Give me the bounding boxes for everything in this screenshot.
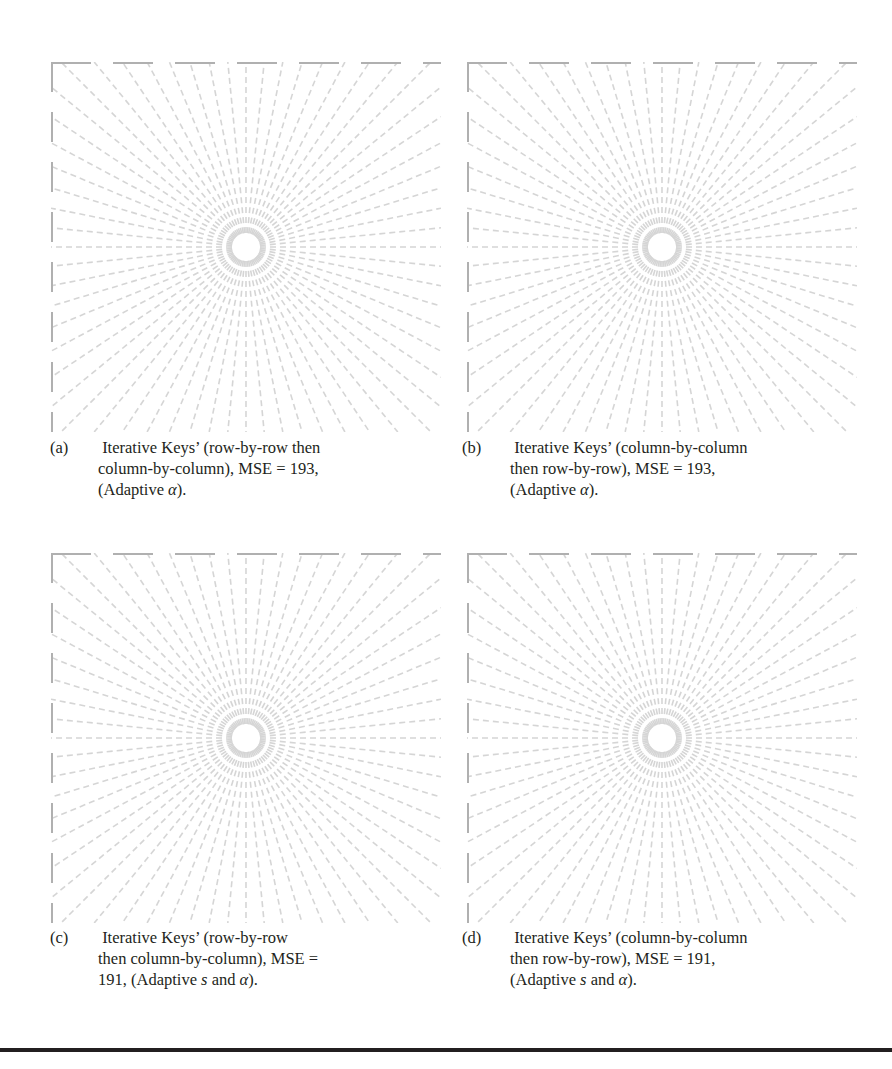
caption-line-1: Iterative Keys’ (column-by-column [514,928,747,947]
caption-label: (b) [486,437,510,458]
starburst-image [51,553,441,923]
caption-label: (c) [74,927,98,948]
bottom-rule [0,1048,892,1052]
figure-image-a [51,62,441,432]
caption-line-3: 191, (Adaptive s and α). [74,969,434,990]
figure-image-b [467,62,857,432]
caption-line-3: (Adaptive α). [74,479,434,500]
caption-label: (a) [74,437,98,458]
caption-line-2: then row-by-row), MSE = 191, [486,948,846,969]
caption-c: (c) Iterative Keys’ (row-by-row then col… [74,927,434,990]
caption-d: (d) Iterative Keys’ (column-by-column th… [486,927,846,990]
caption-line-3: (Adaptive α). [486,479,846,500]
starburst-image [51,62,441,432]
caption-line-2: column-by-column), MSE = 193, [74,458,434,479]
caption-a: (a) Iterative Keys’ (row-by-row then col… [74,437,434,500]
figure-image-d [467,553,857,923]
starburst-image [467,553,857,923]
caption-b: (b) Iterative Keys’ (column-by-column th… [486,437,846,500]
caption-line-1: Iterative Keys’ (row-by-row then [102,438,320,457]
caption-line-1: Iterative Keys’ (column-by-column [514,438,747,457]
caption-line-2: then column-by-column), MSE = [74,948,434,969]
caption-label: (d) [486,927,510,948]
figure-image-c [51,553,441,923]
caption-line-1: Iterative Keys’ (row-by-row [102,928,288,947]
caption-line-2: then row-by-row), MSE = 193, [486,458,846,479]
caption-line-3: (Adaptive s and α). [486,969,846,990]
starburst-image [467,62,857,432]
